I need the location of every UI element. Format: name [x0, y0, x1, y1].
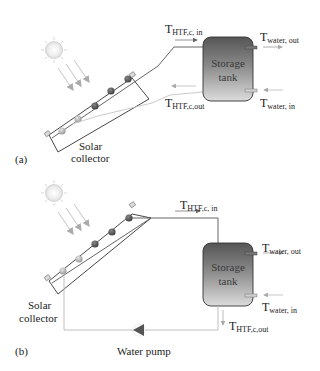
collector-label-line2: collector — [19, 313, 57, 324]
label-water-out: Twater, out — [260, 31, 299, 45]
label-htf-out: THTF,c,out — [165, 97, 205, 111]
label-htf-in: THTF,c, in — [180, 199, 218, 213]
htf-in-subscript: HTF,c, in — [172, 28, 202, 37]
htf-out-subscript: HTF,c,out — [172, 102, 204, 111]
tank-label: Storage tank — [203, 56, 253, 84]
water-out-subscript: water, out — [267, 36, 299, 45]
panel-label-b: (b) — [15, 346, 28, 357]
tank-label-line2: tank — [203, 274, 253, 288]
collector-label-line1: Solar — [79, 141, 102, 152]
collector-label-line1: Solar — [28, 300, 51, 311]
tank-label-line1: Storage — [203, 260, 253, 274]
collector-label-line2: collector — [71, 153, 109, 164]
sun-icon — [41, 37, 67, 63]
label-htf-out: THTF,c,out — [229, 320, 269, 334]
panel-a — [41, 37, 283, 152]
tank-label-line1: Storage — [203, 56, 253, 70]
label-water-out: Twater, out — [262, 242, 301, 256]
htf-in-pipe — [129, 218, 218, 243]
sun-icon — [41, 180, 67, 206]
panel-label-a: (a) — [15, 154, 27, 165]
htf-out-pipe — [64, 271, 218, 330]
sun-rays-icon — [58, 204, 89, 234]
htf-in-pipe — [158, 47, 203, 66]
htf-out-subscript: HTF,c,out — [236, 325, 268, 334]
label-water-in: Twater, in — [262, 301, 297, 315]
panel-b — [41, 180, 283, 336]
pump-label: Water pump — [117, 346, 171, 357]
label-htf-in: THTF,c, in — [165, 23, 203, 37]
label-water-in: Twater, in — [260, 97, 295, 111]
water-in-subscript: water, in — [269, 306, 297, 315]
water-out-subscript: water, out — [269, 247, 301, 256]
sun-rays-icon — [58, 60, 89, 90]
water-pump-icon — [133, 324, 145, 336]
tank-label-line2: tank — [203, 70, 253, 84]
water-in-subscript: water, in — [267, 102, 295, 111]
htf-in-subscript: HTF,c, in — [187, 204, 217, 213]
tank-label: Storage tank — [203, 260, 253, 288]
